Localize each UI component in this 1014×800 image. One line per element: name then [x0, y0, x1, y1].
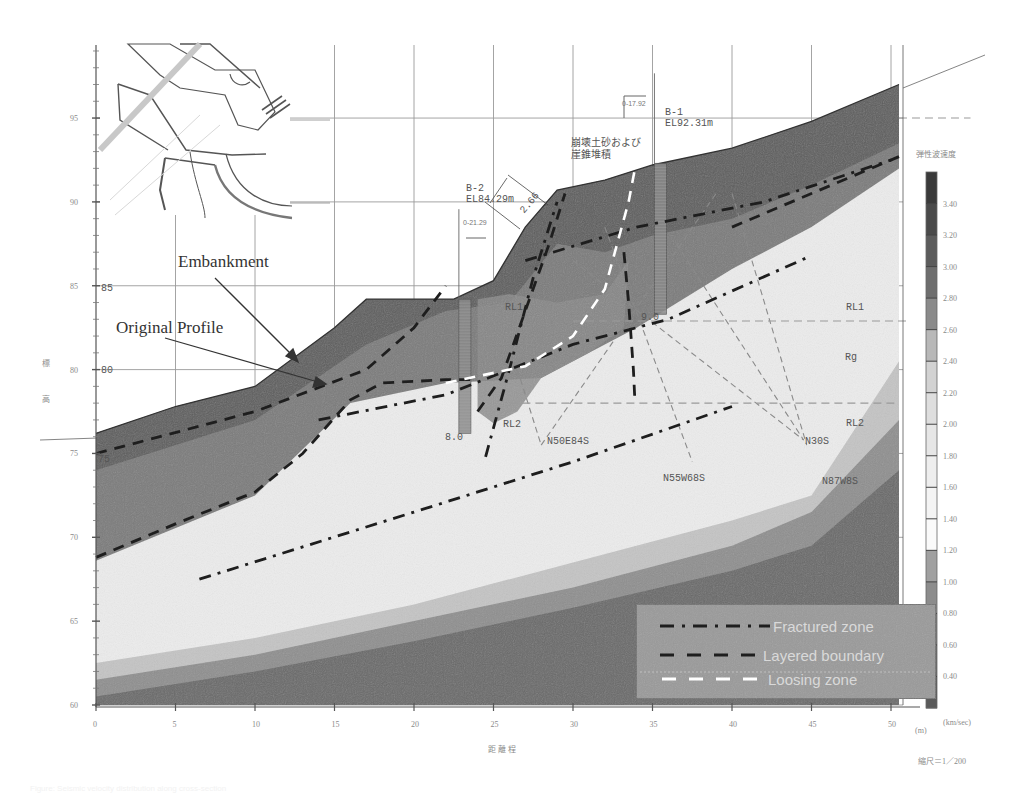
- rl2-left-label: RL2: [503, 419, 521, 430]
- colorbar-band: [926, 393, 937, 425]
- colorbar-band: [926, 298, 937, 330]
- b1-name: B-1: [665, 107, 683, 118]
- colorbar-tick-label: 0.60: [943, 641, 957, 650]
- rl1-right-label: RL1: [846, 302, 864, 313]
- y-tick-label: 75: [70, 449, 78, 458]
- colorbar-tick-label: 1.00: [943, 578, 957, 587]
- x-tick-label: 20: [411, 720, 419, 729]
- colorbar-band: [926, 330, 937, 362]
- borehole-b-1: [654, 163, 666, 314]
- surface-extension-line: [903, 55, 985, 88]
- b2-depth: 8.0: [445, 432, 463, 443]
- n87w8s-label: N87W8S: [822, 476, 858, 487]
- y-tick-label: 65: [70, 617, 78, 626]
- colorbar-band: [926, 456, 937, 488]
- jp-note-line2: 崖錐堆積: [571, 148, 611, 161]
- colorbar-band: [926, 550, 937, 582]
- y-tick-label: 80: [70, 366, 78, 375]
- b1-elevation: EL92.31m: [665, 118, 713, 129]
- colorbar-band: [926, 204, 937, 236]
- n55w68s-label: N55W68S: [663, 473, 705, 484]
- x-tick-label: 45: [809, 720, 817, 729]
- figure-caption: Figure: Seismic velocity distribution al…: [30, 784, 226, 793]
- x-tick-label: 30: [570, 720, 578, 729]
- colorbar-tick-label: 0.80: [943, 609, 957, 618]
- y-tick-label: 95: [70, 114, 78, 123]
- x-axis-label: 距 離 程: [488, 744, 516, 754]
- colorbar-tick-label: 3.20: [943, 231, 957, 240]
- colorbar-band: [926, 424, 937, 456]
- legend-box: Fractured zone Layered boundary Loosing …: [636, 604, 936, 699]
- x-tick-label: 10: [252, 720, 260, 729]
- x-tick-label: 5: [173, 720, 177, 729]
- y-axis-label-2: 高: [42, 394, 50, 404]
- colorbar-band: [926, 267, 937, 299]
- colorbar-tick-label: 0.40: [943, 672, 957, 681]
- legend-label-layered: Layered boundary: [763, 647, 884, 664]
- rl1-left-label: RL1: [505, 302, 523, 313]
- y-tick-label: 70: [70, 533, 78, 542]
- original-profile-label: Original Profile: [116, 318, 223, 337]
- colorbar-tick-label: 3.00: [943, 263, 957, 272]
- colorbar-tick-label: 3.40: [943, 200, 957, 209]
- embankment-label: Embankment: [178, 252, 269, 271]
- colorbar-band: [926, 487, 937, 519]
- x-axis-unit: (m): [915, 726, 927, 735]
- rg-label: Rg: [845, 352, 857, 363]
- colorbar-band: [926, 172, 937, 204]
- colorbar-unit: (km/sec): [943, 718, 971, 727]
- scale-note: 縮尺＝1／200: [918, 756, 966, 766]
- inner-label-85: 85: [101, 283, 113, 294]
- b2-elevation: EL84.29m: [466, 194, 514, 205]
- colorbar-tick-label: 1.20: [943, 546, 957, 555]
- b2-name: B-2: [466, 183, 484, 194]
- colorbar-tick-label: 1.80: [943, 452, 957, 461]
- n50e84s-label: N50E84S: [547, 436, 589, 447]
- y-tick-label: 85: [70, 282, 78, 291]
- x-tick-label: 15: [332, 720, 340, 729]
- site-plan-inset: [100, 44, 330, 218]
- x-tick-label: 50: [888, 720, 896, 729]
- colorbar-band: [926, 519, 937, 551]
- x-tick-label: 0: [93, 720, 97, 729]
- y-tick-label: 60: [70, 701, 78, 710]
- colorbar-band: [926, 235, 937, 267]
- colorbar-tick-label: 1.60: [943, 483, 957, 492]
- colorbar-tick-label: 2.80: [943, 294, 957, 303]
- colorbar-tick-label: 2.60: [943, 326, 957, 335]
- x-tick-label: 35: [650, 720, 658, 729]
- legend-label-fractured: Fractured zone: [773, 618, 874, 635]
- colorbar-tick-label: 1.40: [943, 515, 957, 524]
- x-tick-label: 25: [491, 720, 499, 729]
- rl2-right-label: RL2: [846, 418, 864, 429]
- x-tick-label: 40: [729, 720, 737, 729]
- jp-note-line1: 崩壊土砂および: [571, 136, 641, 149]
- cross-section-figure: 6065707580859095 05101520253035404550 標 …: [0, 0, 1014, 800]
- colorbar-title: 弾性波速度: [916, 149, 956, 159]
- inner-label-75: 75: [98, 454, 110, 465]
- legend-label-loosing: Loosing zone: [768, 671, 857, 688]
- colorbar-band: [926, 361, 937, 393]
- b1-depth: 9.0: [641, 312, 659, 323]
- y-tick-label: 90: [70, 198, 78, 207]
- b1-offset: 0-17.92: [622, 100, 646, 107]
- colorbar-tick-label: 2.00: [943, 420, 957, 429]
- y-axis-label-1: 標: [42, 358, 50, 368]
- colorbar-tick-label: 2.20: [943, 389, 957, 398]
- left-extension-line: [40, 438, 98, 440]
- b2-offset: 0-21.29: [463, 219, 487, 226]
- n30s-label: N30S: [805, 436, 829, 447]
- inner-label-80: 80: [101, 365, 113, 376]
- colorbar-tick-label: 2.40: [943, 357, 957, 366]
